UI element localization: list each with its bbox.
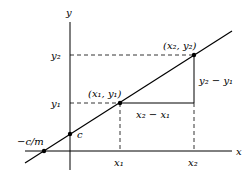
tick-x2: x₂ bbox=[188, 157, 198, 168]
label-p1: (x₁, y₁) bbox=[88, 88, 122, 99]
label-p2: (x₂, y₂) bbox=[163, 40, 197, 51]
label-xint: −c/m bbox=[17, 136, 44, 147]
point-c bbox=[68, 132, 72, 136]
run-label: x₂ − x₁ bbox=[136, 109, 170, 120]
x-axis-label: x bbox=[236, 146, 242, 157]
label-c: c bbox=[77, 129, 83, 140]
point-p1 bbox=[118, 101, 122, 105]
rise-label: y₂ − y₁ bbox=[198, 75, 233, 86]
tick-y2: y₂ bbox=[50, 50, 61, 61]
point-xint bbox=[42, 149, 46, 153]
point-p2 bbox=[192, 53, 196, 57]
y-axis-label: y bbox=[65, 7, 72, 18]
slope-diagram: x y (x₂, y₂) (x₁, y₁) c −c/m x₁ x₂ y₁ y₂… bbox=[0, 0, 251, 176]
tick-x1: x₁ bbox=[114, 157, 124, 168]
tick-y1: y₁ bbox=[50, 98, 61, 109]
